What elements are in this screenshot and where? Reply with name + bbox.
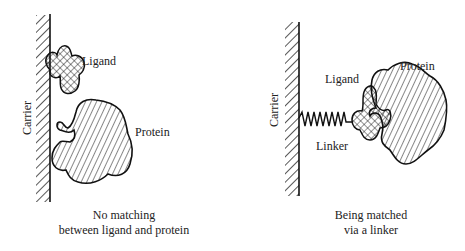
- caption-right-line1: Being matched: [335, 208, 407, 222]
- ligand-label-left: Ligand: [82, 54, 116, 68]
- caption-left-line2: between ligand and protein: [59, 223, 189, 237]
- caption-right-line2: via a linker: [344, 223, 398, 237]
- diagram-canvas: Carrier Ligand Protein No matching betwe…: [0, 0, 465, 251]
- carrier-label-right: Carrier: [267, 93, 281, 127]
- carrier-right: [285, 22, 299, 196]
- panel-no-matching: Carrier Ligand Protein No matching betwe…: [20, 14, 189, 237]
- caption-left-line1: No matching: [93, 208, 155, 222]
- carrier-left: [36, 14, 50, 202]
- ligand-shape-left: [46, 46, 85, 94]
- linker-label: Linker: [316, 139, 348, 153]
- protein-label-left: Protein: [135, 125, 170, 139]
- linker-spring: [299, 112, 352, 126]
- panel-matched-via-linker: Carrier Linker Protein Ligand Being matc…: [267, 22, 447, 237]
- carrier-label-left: Carrier: [20, 101, 34, 135]
- ligand-label-right: Ligand: [325, 72, 359, 86]
- protein-shape-left: [52, 100, 132, 184]
- protein-label-right: Protein: [400, 59, 435, 73]
